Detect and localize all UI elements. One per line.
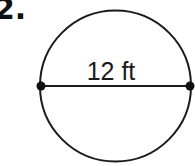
diameter-measurement-label: 12 ft <box>87 57 136 85</box>
diagram-canvas: 2. 12 ft <box>0 0 195 166</box>
left-endpoint-dot <box>37 82 46 91</box>
right-endpoint-dot <box>186 82 195 91</box>
circle-figure: 12 ft <box>0 0 195 166</box>
